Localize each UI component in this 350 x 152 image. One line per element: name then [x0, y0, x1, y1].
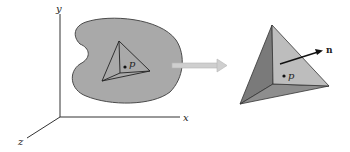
z-axis-label: z: [17, 136, 24, 147]
diagram-svg: y x z p p: [0, 0, 350, 152]
x-axis-label: x: [183, 112, 189, 123]
inner-point-label: p: [129, 58, 136, 69]
front-face: [272, 25, 329, 86]
enlarged-tetrahedron: [240, 25, 329, 104]
enlarged-point-label: p: [288, 70, 295, 81]
y-axis-label: y: [55, 3, 62, 14]
inner-point-dot: [123, 65, 126, 68]
z-axis: [27, 117, 60, 138]
diagram-canvas: y x z p p: [0, 0, 350, 152]
normal-vector-label: n: [326, 45, 333, 55]
enlarged-point-dot: [282, 74, 285, 77]
body-blob: [72, 18, 182, 103]
